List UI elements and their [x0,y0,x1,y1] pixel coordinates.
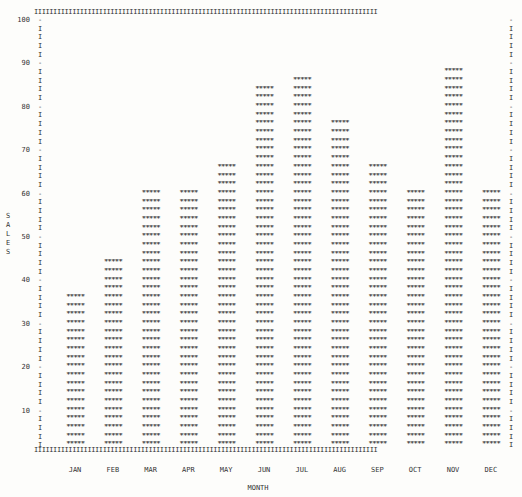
axis-segment: I [507,337,515,345]
axis-segment: I [36,111,44,119]
bar-row: ***** [362,346,392,355]
axis-segment: I [507,85,515,93]
bar-row: ***** [438,164,468,173]
axis-segment: I [36,33,44,41]
axis-segment: I [507,198,515,206]
axis-segment: I [36,224,44,232]
bar-row: ***** [287,329,317,338]
bar-row: ***** [60,337,90,346]
bar-row: ***** [287,363,317,372]
bar-row: ***** [173,242,203,251]
axis-segment: I [36,25,44,33]
bar-row: ***** [438,337,468,346]
bar-row: ***** [211,355,241,364]
plot-frame-top: IIIIIIIIIIIIIIIIIIIIIIIIIIIIIIIIIIIIIIII… [34,8,516,16]
bar-row: ***** [325,138,355,147]
bar-row: ***** [476,407,506,416]
bar-row: ***** [249,407,279,416]
axis-segment: I [507,268,515,276]
bar-row: ***** [287,294,317,303]
bar-row: ***** [136,251,166,260]
bar-row: ***** [98,372,128,381]
bar-row: ***** [362,207,392,216]
axis-segment: I [36,250,44,258]
axis-segment: I [507,285,515,293]
bar-row: ***** [136,216,166,225]
bar-row: ***** [249,285,279,294]
axis-segment: I [507,216,515,224]
bar-row: ***** [476,433,506,442]
bar-row: ***** [98,337,128,346]
bar-row: ***** [249,346,279,355]
bar-row: ***** [287,303,317,312]
bar-row: ***** [325,268,355,277]
y-tick-mark: - [36,190,44,198]
bar-row: ***** [438,68,468,77]
bar-row: ***** [211,389,241,398]
bar-row: ***** [362,372,392,381]
bar-row: ***** [476,329,506,338]
axis-segment: I [36,424,44,432]
bar-row: ***** [173,346,203,355]
axis-segment: I [36,381,44,389]
bar-row: ***** [362,251,392,260]
bar-row: ***** [325,164,355,173]
bar-row: ***** [136,199,166,208]
bar-row: ***** [325,285,355,294]
bar-row: ***** [249,173,279,182]
bar-row: ***** [438,207,468,216]
bar-row: ***** [211,424,241,433]
bar-row: ***** [438,407,468,416]
bar-row: ***** [476,199,506,208]
bar-row: ***** [249,277,279,286]
bar-row: ***** [362,363,392,372]
y-tick-mark: - [507,146,515,154]
bar-row: ***** [362,381,392,390]
bar-row: ***** [136,225,166,234]
bar-row: ***** [476,398,506,407]
bar-row: ***** [287,433,317,442]
bar-row: ***** [400,294,430,303]
x-tick-label: MAY [206,466,246,474]
bar-row: ***** [249,129,279,138]
bar-row: ***** [325,155,355,164]
bar-row: ***** [438,216,468,225]
bar-row: ***** [211,346,241,355]
bar-row: ***** [136,268,166,277]
x-tick-label: MAR [131,466,171,474]
axis-segment: I [507,155,515,163]
axis-segment: I [36,389,44,397]
bar-row: ***** [476,311,506,320]
bar-row: ***** [136,311,166,320]
bar-row: ***** [476,242,506,251]
bar-row: ***** [438,86,468,95]
bar-row: ***** [98,389,128,398]
bar-row: ***** [136,242,166,251]
axis-segment: I [36,294,44,302]
bar-row: ***** [400,363,430,372]
bar-row: ***** [173,268,203,277]
bar-row: ***** [325,199,355,208]
bar-row: ***** [287,381,317,390]
y-tick-label: 70 [0,146,30,154]
axis-segment: I [507,138,515,146]
bar-row: ***** [249,86,279,95]
bar-row: ***** [173,285,203,294]
bar-row: ***** [60,355,90,364]
bar-may: ****************************************… [211,164,241,450]
bar-row: ***** [438,94,468,103]
bar-row: ***** [211,242,241,251]
bar-row: ***** [136,190,166,199]
bar-row: ***** [287,259,317,268]
axis-segment: I [36,198,44,206]
bar-row: ***** [211,372,241,381]
x-axis-label: MONTH [228,484,288,492]
bar-row: ***** [362,294,392,303]
bar-row: ***** [136,320,166,329]
y-tick-mark: - [36,59,44,67]
bar-row: ***** [98,285,128,294]
y-tick-mark: - [507,16,515,24]
bar-row: ***** [60,311,90,320]
bar-row: ***** [287,94,317,103]
axis-segment: I [507,129,515,137]
